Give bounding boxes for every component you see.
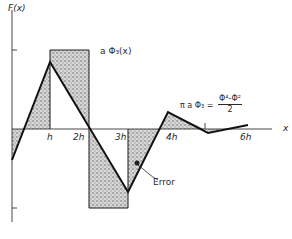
equation-numerator: Φ⁴-Φ²	[218, 95, 242, 105]
tick-6h: 6h	[240, 133, 251, 142]
equation-fraction: Φ⁴-Φ² 2	[218, 95, 242, 114]
y-axis-label: F(x)	[8, 4, 26, 13]
error-annotation: Error	[153, 178, 175, 187]
x-axis-label: x	[283, 124, 288, 133]
tick-h: h	[47, 133, 53, 142]
function-label: a Φ₃(x)	[100, 47, 131, 56]
tick-4h: 4h	[166, 133, 177, 142]
tick-2h: 2h	[73, 133, 84, 142]
tick-3h: 3h	[115, 133, 126, 142]
axes	[12, 10, 272, 222]
equation-denominator: 2	[218, 105, 242, 114]
piecewise-linear-diagram	[0, 0, 292, 239]
equation-lhs: π a Φ₃ =	[180, 102, 214, 110]
